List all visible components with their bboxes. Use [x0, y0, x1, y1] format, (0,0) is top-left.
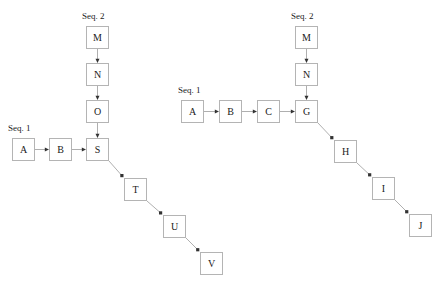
node-v[interactable]: V [200, 252, 223, 275]
diagram-canvas: Seq. 2Seq. 1Seq. 1Seq. 2MNOSABTUVMNGABCH… [0, 0, 442, 283]
arrowhead-icon [159, 211, 162, 214]
node-j[interactable]: J [409, 214, 432, 237]
edge [96, 86, 100, 100]
sequence-label: Seq. 1 [178, 85, 201, 95]
arrowhead-icon [405, 210, 408, 213]
edge [72, 148, 86, 152]
edge [242, 110, 257, 114]
edge [204, 110, 219, 114]
edge [186, 238, 199, 251]
node-m[interactable]: M [295, 26, 318, 49]
node-m[interactable]: M [86, 26, 109, 49]
arrowhead-icon [196, 248, 199, 251]
edge [318, 123, 333, 139]
node-h[interactable]: H [334, 140, 357, 163]
edge [305, 49, 309, 63]
edge [280, 110, 295, 114]
node-a[interactable]: A [181, 100, 204, 123]
node-o[interactable]: O [86, 100, 109, 123]
node-g[interactable]: G [295, 100, 318, 123]
node-u[interactable]: U [163, 215, 186, 238]
node-c[interactable]: C [257, 100, 280, 123]
arrowhead-icon [120, 174, 123, 177]
edge [395, 200, 408, 213]
edge [96, 123, 100, 138]
sequence-label: Seq. 2 [291, 11, 314, 21]
node-n[interactable]: N [86, 63, 109, 86]
edge [109, 161, 123, 177]
edge [35, 148, 49, 152]
edge [305, 86, 309, 100]
sequence-label: Seq. 2 [82, 11, 105, 21]
node-a[interactable]: A [12, 138, 35, 161]
node-t[interactable]: T [124, 178, 147, 201]
arrowhead-icon [330, 136, 333, 139]
node-i[interactable]: I [372, 177, 395, 200]
node-b[interactable]: B [219, 100, 242, 123]
node-n[interactable]: N [295, 63, 318, 86]
node-b[interactable]: B [49, 138, 72, 161]
edge [147, 201, 162, 214]
node-s[interactable]: S [86, 138, 109, 161]
edge [357, 163, 371, 176]
sequence-label: Seq. 1 [8, 123, 31, 133]
arrowhead-icon [368, 173, 371, 176]
edge [96, 49, 100, 63]
